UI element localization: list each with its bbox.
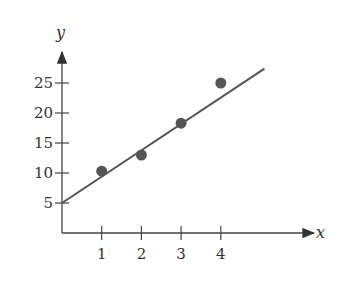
x-tick-label: 2 — [137, 245, 147, 263]
y-tick-label: 15 — [34, 134, 53, 152]
y-tick-label: 20 — [34, 104, 53, 122]
x-ticks: 1234 — [97, 226, 226, 263]
x-tick-label: 4 — [216, 245, 226, 263]
y-tick-label: 5 — [43, 194, 53, 212]
data-point — [136, 150, 147, 161]
data-points — [96, 78, 226, 177]
axes: x y — [55, 23, 325, 242]
chart: x y 1234 510152025 — [0, 0, 339, 289]
x-tick-label: 1 — [97, 245, 107, 263]
data-point — [176, 118, 187, 129]
y-ticks: 510152025 — [34, 74, 69, 212]
y-tick-label: 10 — [34, 164, 53, 182]
x-axis-label: x — [316, 223, 325, 242]
fit-line — [62, 69, 264, 203]
data-point — [96, 166, 107, 177]
y-axis-label: y — [55, 23, 66, 42]
x-tick-label: 3 — [176, 245, 186, 263]
data-point — [215, 78, 226, 89]
y-tick-label: 25 — [34, 74, 53, 92]
